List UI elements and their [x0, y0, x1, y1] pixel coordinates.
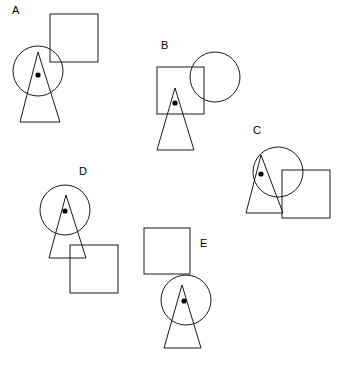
- center-dot-marker: [35, 72, 40, 77]
- figure-d: D: [40, 165, 118, 293]
- figure-a: A: [12, 4, 98, 122]
- figure-label-a: A: [12, 4, 20, 16]
- triangle-shape: [164, 285, 201, 348]
- triangle-shape: [49, 195, 86, 258]
- triangle-shape: [246, 155, 283, 213]
- figure-c: C: [246, 124, 330, 218]
- figure-canvas: ABCDE: [0, 0, 344, 367]
- figure-label-c: C: [253, 124, 261, 136]
- figure-label-b: B: [161, 39, 168, 51]
- center-dot-marker: [62, 208, 67, 213]
- figure-e: E: [144, 228, 211, 348]
- square-shape: [70, 245, 118, 293]
- triangle-shape: [157, 88, 194, 150]
- center-dot-marker: [172, 100, 177, 105]
- figure-b: B: [157, 39, 240, 150]
- center-dot-marker: [181, 298, 186, 303]
- square-shape: [144, 228, 190, 274]
- circle-shape: [190, 52, 240, 102]
- center-dot-marker: [258, 171, 263, 176]
- figure-label-d: D: [79, 165, 87, 177]
- figure-label-e: E: [200, 237, 207, 249]
- figures-group: ABCDE: [12, 4, 330, 348]
